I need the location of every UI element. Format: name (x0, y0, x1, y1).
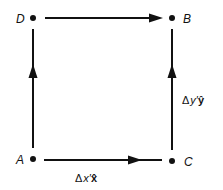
point-a-label: A (15, 153, 24, 167)
point-b-label: B (183, 12, 191, 26)
point-b-dot (169, 15, 175, 21)
point-c-label: C (184, 155, 193, 169)
path-diagram: D B A C Δy′ŷ Δx′x̂ (0, 0, 223, 190)
point-d-label: D (16, 12, 25, 26)
edge-c-b-label: Δy′ŷ (182, 94, 205, 106)
point-d-dot (30, 15, 36, 21)
unit-vector: ŷ (198, 94, 205, 106)
delta-symbol: Δ (182, 94, 190, 106)
unit-vector: x̂ (91, 172, 98, 184)
edge-c-to-b (168, 29, 177, 150)
edge-a-c-label: Δx′x̂ (75, 172, 98, 184)
arrowhead-right-icon (128, 156, 142, 165)
arrowhead-right-icon (149, 14, 163, 23)
point-a-dot (30, 156, 36, 162)
edge-a-to-d (29, 29, 38, 148)
delta-symbol: Δ (75, 172, 83, 184)
edge-d-to-b (45, 14, 163, 23)
point-c-dot (169, 158, 175, 164)
arrowhead-up-icon (168, 64, 177, 78)
edge-a-to-c (44, 156, 162, 165)
arrowhead-up-icon (29, 64, 38, 78)
